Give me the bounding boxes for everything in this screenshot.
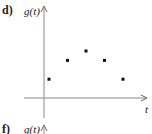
panel-f-axis [0, 0, 152, 134]
